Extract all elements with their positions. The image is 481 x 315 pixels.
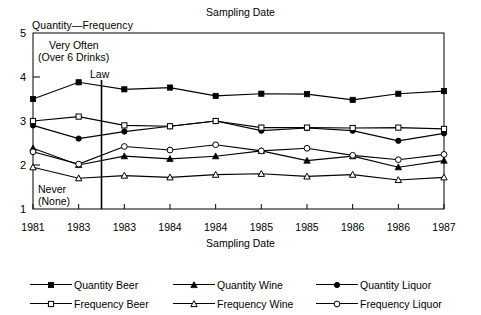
marker-open-square [441,126,446,131]
legend-entry[interactable]: Quantity Liquor [314,278,457,292]
marker-open-square [30,118,35,123]
legend-entry[interactable]: Frequency Wine [171,297,314,311]
marker-filled-circle [122,129,127,134]
legend-key-quantity-beer [28,278,74,292]
legend-entry[interactable]: Quantity Wine [171,278,314,292]
legend-key-frequency-liquor [314,297,360,311]
marker-filled-square [396,91,401,96]
legend-label: Quantity Liquor [360,279,431,291]
legend-key-marker [330,297,344,311]
series-frequency-liquor [30,142,447,167]
marker-filled-square [259,91,264,96]
legend-entry[interactable]: Quantity Beer [28,278,171,292]
marker-filled-circle [334,282,339,287]
marker-open-square [76,114,81,119]
marker-filled-circle [76,136,81,141]
marker-filled-square [213,93,218,98]
plot-area [0,0,481,315]
marker-filled-square [48,282,53,287]
series-quantity-wine [30,145,447,170]
series-frequency-beer [30,114,446,132]
marker-open-square [48,301,53,306]
series-line [33,145,444,164]
marker-open-square [213,118,218,123]
legend-key-quantity-wine [171,278,217,292]
legend-label: Frequency Wine [217,298,293,310]
legend-key-marker [187,297,201,311]
legend-entry[interactable]: Frequency Liquor [314,297,457,311]
legend-entry[interactable]: Frequency Beer [28,297,171,311]
marker-filled-square [350,97,355,102]
marker-filled-square [76,80,81,85]
marker-open-circle [121,144,127,150]
legend-key-marker [187,278,201,292]
series-quantity-beer [30,80,446,103]
legend-key-frequency-beer [28,297,74,311]
marker-open-circle [334,301,340,307]
marker-open-square [259,125,264,130]
legend-label: Frequency Liquor [360,298,442,310]
marker-open-square [122,123,127,128]
marker-open-circle [350,152,356,158]
series-line [33,117,444,129]
legend-key-marker [44,297,58,311]
marker-open-circle [76,161,82,167]
legend-key-frequency-wine [171,297,217,311]
marker-open-circle [213,142,219,148]
marker-open-square [396,125,401,130]
marker-open-circle [30,149,36,155]
legend-label: Frequency Beer [74,298,149,310]
legend-row: Quantity BeerQuantity WineQuantity Liquo… [28,275,458,294]
legend-label: Quantity Beer [74,279,138,291]
series-frequency-wine [30,164,447,183]
series-line [33,82,444,100]
series-line [33,167,444,180]
marker-open-circle [441,152,447,158]
marker-filled-circle [396,138,401,143]
marker-filled-square [122,87,127,92]
marker-open-circle [304,145,310,151]
marker-open-circle [395,157,401,163]
legend-key-marker [44,278,58,292]
marker-open-square [304,125,309,130]
legend-key-marker [330,278,344,292]
marker-open-square [350,125,355,130]
marker-filled-triangle [191,281,197,287]
marker-filled-square [167,85,172,90]
marker-open-circle [167,147,173,153]
legend-key-quantity-liquor [314,278,360,292]
marker-open-triangle [191,300,197,306]
marker-filled-square [30,96,35,101]
marker-open-circle [258,148,264,154]
marker-filled-triangle [441,157,447,163]
legend-label: Quantity Wine [217,279,283,291]
marker-open-square [167,124,172,129]
marker-filled-square [441,88,446,93]
chart-figure: Sampling Date Quantity—Frequency Very Of… [0,0,481,315]
marker-filled-square [304,92,309,97]
legend-row: Frequency BeerFrequency WineFrequency Li… [28,294,458,313]
plot-frame [33,33,444,209]
series-quantity-liquor [30,118,446,143]
chart-legend: Quantity BeerQuantity WineQuantity Liquo… [28,275,458,313]
